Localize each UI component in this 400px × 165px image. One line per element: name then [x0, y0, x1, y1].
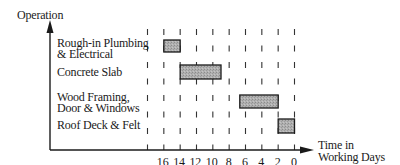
x-tick-label: 2 — [275, 156, 281, 165]
y-axis-label: Operation — [17, 9, 63, 21]
x-tick-label: 8 — [226, 156, 232, 165]
x-tick-label: 10 — [206, 156, 218, 165]
category-label: Concrete Slab — [57, 67, 122, 78]
gantt-bar — [240, 95, 278, 108]
x-tick-label: 16 — [157, 156, 169, 165]
x-axis-arrow-icon — [300, 147, 314, 154]
x-axis-label-line-2: Working Days — [318, 151, 385, 163]
gantt-bar — [278, 119, 294, 133]
gantt-bar — [180, 65, 221, 79]
x-tick-label: 6 — [242, 156, 248, 165]
category-label: Wood Framing,Door & Windows — [57, 92, 140, 114]
x-axis-label: Time in Working Days — [318, 139, 385, 163]
category-label: Rough-in Plumbing& Electrical — [57, 38, 149, 60]
x-tick-label: 0 — [291, 156, 297, 165]
x-tick-label: 14 — [173, 156, 185, 165]
x-tick-label: 12 — [190, 156, 202, 165]
bars — [164, 40, 295, 133]
gantt-bar — [164, 40, 180, 52]
gantt-chart: Operation Rough-in Plumbing& ElectricalC… — [0, 0, 400, 165]
x-tick-label: 4 — [258, 156, 264, 165]
category-label: Roof Deck & Felt — [57, 120, 140, 131]
